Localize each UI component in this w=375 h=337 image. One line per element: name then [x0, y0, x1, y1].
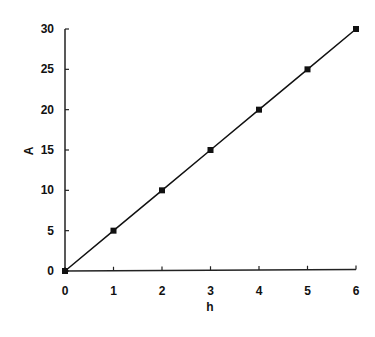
y-tick-label: 10	[41, 183, 55, 197]
data-point-marker	[62, 268, 68, 274]
x-tick-label: 2	[159, 284, 166, 298]
x-tick-label: 3	[207, 284, 214, 298]
x-tick-label: 5	[304, 284, 311, 298]
x-tick-label: 6	[353, 284, 360, 298]
y-tick-label: 15	[41, 143, 55, 157]
y-tick-label: 5	[47, 224, 54, 238]
data-point-marker	[159, 187, 165, 193]
x-axis-label: h	[206, 300, 213, 314]
data-point-marker	[305, 66, 311, 72]
data-point-marker	[111, 228, 117, 234]
x-tick-label: 4	[256, 284, 263, 298]
y-tick-label: 25	[41, 62, 55, 76]
y-axis-label: A	[22, 146, 36, 155]
data-point-marker	[208, 147, 214, 153]
x-tick-label: 1	[110, 284, 117, 298]
x-tick-label: 0	[62, 284, 69, 298]
y-tick-label: 30	[41, 22, 55, 36]
data-series	[62, 26, 359, 274]
data-point-marker	[353, 26, 359, 32]
line-chart: 051015202530 0123456 h A	[0, 0, 375, 337]
y-tick-label: 0	[47, 264, 54, 278]
data-point-marker	[256, 107, 262, 113]
y-tick-label: 20	[41, 103, 55, 117]
